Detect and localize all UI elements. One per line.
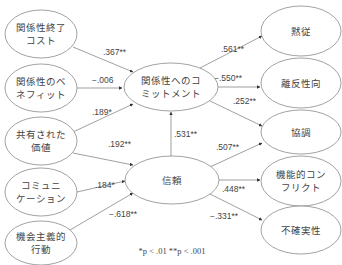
node-cooperation: 協調 [261,110,341,154]
edge-coefficient-label: .561** [221,44,245,54]
node-communication: コミュニケーション [5,168,77,216]
edge-coefficient-label: −.550** [214,73,243,83]
node-ellipse [124,63,218,111]
node-uncertainty: 不確実性 [261,206,341,254]
edge-commitment-to-acquiescence: .561** [200,36,262,68]
node-commitment: 関係性へのコミットメント [124,63,218,111]
edge-opportunistic_behavior-to-trust: −.618** [70,193,138,230]
node-label: 関係性のベ [16,76,66,87]
node-label: 黙従 [291,26,311,37]
node-shared-values: 共有された価値 [5,117,77,165]
node-functional-conflict: 機能的コンフリクト [261,156,341,206]
node-relationship-benefit: 関係性のベネフィット [5,64,77,112]
node-label: ネフィット [16,89,66,100]
edge-coefficient-label: .184* [95,180,116,190]
node-trust: 信頼 [125,156,219,204]
node-label: コスト [26,35,56,46]
edge-trust-to-functional_conflict: .448** [219,180,260,194]
edge-commitment-to-propensity_to_leave: −.550** [214,73,260,87]
node-label: 協調 [291,127,311,138]
node-ellipse [5,221,77,265]
edge-coefficient-label: −.331** [210,211,239,221]
node-ellipse [5,10,77,58]
node-ellipse [5,64,77,112]
edge-coefficient-label: .367** [103,47,127,57]
edge-coefficient-label: .189* [92,107,113,117]
edge-coefficient-label: .531** [174,129,198,139]
node-label: 価値 [31,142,51,153]
edge-commitment-to-cooperation: .252** [210,96,262,126]
node-label: 機能的コン [276,169,326,180]
edge-relationship_benefit-to-commitment: −.006 [77,75,122,88]
node-label: ミットメント [141,88,201,99]
node-label: フリクト [281,182,321,193]
edge-arrow [73,153,133,165]
edge-shared_values-to-commitment: .189* [73,104,133,132]
edge-termination_cost-to-commitment: .367** [73,47,133,72]
node-opportunistic-behavior: 機会主義的行動 [5,221,77,265]
structural-model-diagram: .367**−.006.189*.192**.184*−.618**.531**… [0,0,342,265]
significance-note: *p < .01 **p < .001 [139,246,206,256]
node-label: 信頼 [162,175,182,186]
node-termination-cost: 関係性終了コスト [5,10,77,58]
node-label: 不確実性 [281,225,321,236]
edge-coefficient-label: .252** [233,96,257,106]
node-label: 共有された [16,129,66,140]
edge-coefficient-label: −.006 [92,75,114,85]
edge-trust-to-uncertainty: −.331** [210,194,262,221]
edge-coefficient-label: .507** [216,142,240,152]
node-ellipse [261,156,341,206]
node-label: ケーション [16,193,66,204]
node-label: 行動 [31,244,51,255]
node-label: コミュニ [21,180,61,191]
edge-coefficient-label: −.618** [109,209,138,219]
node-label: 離反性向 [281,78,321,89]
edge-trust-to-commitment: .531** [171,112,198,156]
node-propensity-to-leave: 離反性向 [261,58,341,108]
node-label: 機会主義的 [16,231,66,242]
node-label: 関係性へのコ [141,75,201,86]
node-label: 関係性終了 [16,22,66,33]
edge-communication-to-trust: .184* [77,180,125,192]
edge-trust-to-cooperation: .507** [210,142,262,167]
node-ellipse [5,117,77,165]
node-ellipse [5,168,77,216]
edge-shared_values-to-trust: .192** [73,139,133,165]
edge-coefficient-label: .192** [108,139,132,149]
edge-coefficient-label: .448** [222,184,246,194]
node-acquiescence: 黙従 [261,6,341,56]
